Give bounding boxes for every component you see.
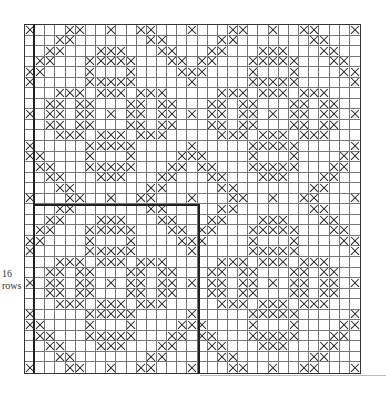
- stitch-cross-icon: [127, 278, 137, 289]
- grid-cell: [340, 310, 350, 321]
- grid-cell: [218, 67, 228, 78]
- stitch-cross-icon: [248, 246, 258, 257]
- grid-cell: [45, 78, 55, 89]
- stitch-cross-icon: [228, 183, 238, 194]
- grid-cell: [66, 268, 76, 279]
- stitch-cross-icon: [289, 120, 299, 131]
- grid-cell: [208, 183, 218, 194]
- grid-cell: [147, 109, 157, 120]
- grid-cell: [66, 278, 76, 289]
- stitch-cross-icon: [208, 331, 218, 342]
- grid-cell: [340, 130, 350, 141]
- stitch-cross-icon: [167, 289, 177, 300]
- grid-cell: [289, 352, 299, 363]
- grid-cell: [258, 352, 268, 363]
- grid-cell: [208, 88, 218, 99]
- grid-cell: [279, 352, 289, 363]
- stitch-cross-icon: [228, 257, 238, 268]
- grid-cell: [330, 141, 340, 152]
- stitch-cross-icon: [177, 320, 187, 331]
- grid-cell: [258, 289, 268, 300]
- stitch-cross-icon: [279, 57, 289, 68]
- grid-cell: [289, 204, 299, 215]
- grid-cell: [238, 173, 248, 184]
- grid-cell: [167, 246, 177, 257]
- grid-cell: [258, 204, 268, 215]
- grid-cell: [299, 57, 309, 68]
- grid-cell: [137, 57, 147, 68]
- stitch-cross-icon: [340, 67, 350, 78]
- grid-cell: [258, 194, 268, 205]
- stitch-cross-icon: [86, 57, 96, 68]
- stitch-cross-icon: [208, 46, 218, 57]
- stitch-cross-icon: [187, 141, 197, 152]
- grid-cell: [76, 310, 86, 321]
- stitch-cross-icon: [45, 268, 55, 279]
- grid-cell: [309, 78, 319, 89]
- grid-cell: [96, 152, 106, 163]
- stitch-cross-icon: [116, 215, 126, 226]
- stitch-cross-icon: [238, 268, 248, 279]
- stitch-cross-icon: [66, 352, 76, 363]
- grid-cell: [289, 194, 299, 205]
- stitch-cross-icon: [279, 130, 289, 141]
- stitch-cross-icon: [350, 246, 360, 257]
- stitch-cross-icon: [106, 130, 116, 141]
- grid-cell: [350, 183, 360, 194]
- grid-cell: [208, 236, 218, 247]
- grid-cell: [116, 236, 126, 247]
- stitch-cross-icon: [309, 299, 319, 310]
- stitch-cross-icon: [279, 299, 289, 310]
- grid-cell: [248, 362, 258, 373]
- grid-cell: [86, 36, 96, 47]
- grid-cell: [147, 278, 157, 289]
- grid-cell: [218, 320, 228, 331]
- stitch-cross-icon: [96, 341, 106, 352]
- stitch-cross-icon: [198, 152, 208, 163]
- grid-cell: [137, 310, 147, 321]
- grid-cell: [299, 141, 309, 152]
- grid-cell: [279, 25, 289, 36]
- grid-cell: [340, 99, 350, 110]
- grid-cell: [238, 67, 248, 78]
- grid-cell: [319, 246, 329, 257]
- grid-cell: [76, 36, 86, 47]
- grid-cell: [269, 67, 279, 78]
- grid-cell: [55, 152, 65, 163]
- stitch-cross-icon: [228, 88, 238, 99]
- stitch-cross-icon: [45, 215, 55, 226]
- stitch-cross-icon: [116, 310, 126, 321]
- grid-cell: [66, 225, 76, 236]
- stitch-cross-icon: [76, 268, 86, 279]
- grid-cell: [309, 57, 319, 68]
- stitch-cross-icon: [45, 289, 55, 300]
- grid-cell: [228, 78, 238, 89]
- grid-cell: [127, 362, 137, 373]
- stitch-cross-icon: [106, 173, 116, 184]
- grid-cell: [187, 225, 197, 236]
- grid-cell: [157, 57, 167, 68]
- grid-cell: [76, 152, 86, 163]
- stitch-cross-icon: [167, 120, 177, 131]
- grid-cell: [116, 25, 126, 36]
- stitch-cross-icon: [248, 162, 258, 173]
- grid-cell: [309, 225, 319, 236]
- stitch-cross-icon: [187, 152, 197, 163]
- stitch-cross-icon: [309, 257, 319, 268]
- stitch-cross-icon: [248, 57, 258, 68]
- grid-cell: [76, 225, 86, 236]
- stitch-cross-icon: [76, 109, 86, 120]
- grid-cell: [319, 310, 329, 321]
- grid-cell: [218, 78, 228, 89]
- grid-cell: [137, 331, 147, 342]
- grid-cell: [116, 362, 126, 373]
- stitch-cross-icon: [55, 299, 65, 310]
- stitch-cross-icon: [35, 225, 45, 236]
- stitch-cross-icon: [289, 57, 299, 68]
- grid-cell: [218, 331, 228, 342]
- stitch-cross-icon: [86, 225, 96, 236]
- stitch-cross-icon: [350, 236, 360, 247]
- stitch-cross-icon: [116, 88, 126, 99]
- grid-cell: [86, 183, 96, 194]
- repeat-label-unit: rows: [2, 280, 21, 292]
